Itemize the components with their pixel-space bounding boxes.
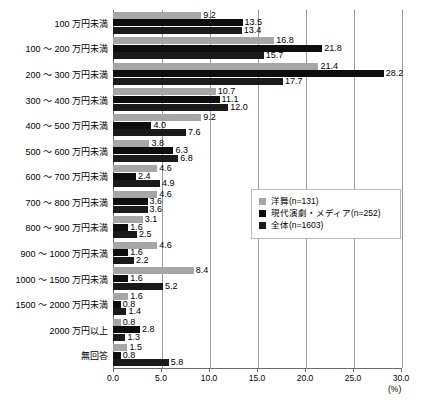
x-axis-tick-label: 20.0 [297, 373, 314, 383]
x-axis-tick-label: 30.0 [393, 373, 410, 383]
chart-legend: 洋舞(n=131) 現代演劇・メディア(n=252) 全体(n=1603) [251, 189, 401, 239]
legend-label: 洋舞(n=131) [271, 196, 319, 207]
bar-value-label: 3.6 [150, 205, 163, 214]
bar-value-label: 2.5 [139, 230, 152, 239]
legend-item-1: 現代演劇・メディア(n=252) [259, 208, 393, 219]
bar-value-label: 7.6 [188, 128, 201, 137]
x-axis-tick-label: 15.0 [249, 373, 266, 383]
bar-0 [113, 267, 194, 274]
bar-2 [113, 359, 169, 366]
bar-2 [113, 104, 228, 111]
bar-2 [113, 180, 160, 187]
bar-value-label: 21.8 [324, 44, 342, 53]
x-axis-tick [257, 368, 258, 372]
category-label: 300 ～ 400 万円未満 [0, 94, 108, 107]
category-label: 600 ～ 700 万円未満 [0, 170, 108, 183]
bar-2 [113, 155, 178, 162]
bar-1 [113, 45, 322, 52]
bar-1 [113, 224, 128, 231]
bar-2 [113, 283, 163, 290]
bar-value-label: 2.8 [142, 325, 155, 334]
bar-1 [113, 198, 148, 205]
category-label: 100 ～ 200 万円未満 [0, 42, 108, 55]
bar-value-label: 8.4 [196, 266, 209, 275]
bar-value-label: 15.7 [266, 51, 284, 60]
category-label: 700 ～ 800 万円未満 [0, 196, 108, 209]
bar-2 [113, 257, 134, 264]
bar-2 [113, 206, 148, 213]
bar-2 [113, 27, 242, 34]
bar-value-label: 1.4 [128, 307, 141, 316]
x-axis-unit-label: (%) [388, 384, 401, 394]
bar-1 [113, 173, 136, 180]
x-axis-tick [401, 368, 402, 372]
legend-item-2: 全体(n=1603) [259, 220, 393, 231]
x-axis-tick [305, 368, 306, 372]
legend-swatch-icon [259, 222, 266, 229]
category-label: 1500 ～ 2000 万円未満 [0, 298, 108, 311]
bar-1 [113, 275, 128, 282]
bar-value-label: 13.4 [244, 26, 262, 35]
bar-1 [113, 147, 173, 154]
bar-0 [113, 140, 149, 147]
gridline [402, 10, 403, 368]
bar-2 [113, 308, 126, 315]
bar-0 [113, 12, 201, 19]
bar-0 [113, 63, 318, 70]
bar-value-label: 4.6 [159, 241, 172, 250]
bar-value-label: 1.3 [127, 333, 140, 342]
x-axis-tick-label: 5.0 [155, 373, 167, 383]
bar-2 [113, 52, 264, 59]
category-label: 500 ～ 600 万円未満 [0, 145, 108, 158]
category-label: 400 ～ 500 万円未満 [0, 119, 108, 132]
category-label: 無回答 [0, 349, 108, 362]
category-label: 100 万円未満 [0, 17, 108, 30]
bar-value-label: 5.2 [165, 282, 178, 291]
bar-value-label: 4.9 [162, 179, 175, 188]
bar-value-label: 12.0 [230, 103, 248, 112]
bar-1 [113, 122, 151, 129]
bar-1 [113, 19, 243, 26]
bar-0 [113, 37, 274, 44]
bar-1 [113, 301, 121, 308]
bar-value-label: 6.8 [180, 154, 193, 163]
bar-2 [113, 78, 283, 85]
bar-value-label: 9.2 [203, 113, 216, 122]
bar-2 [113, 129, 186, 136]
x-axis-tick [161, 368, 162, 372]
legend-swatch-icon [259, 210, 266, 217]
bar-1 [113, 96, 220, 103]
x-axis-tick [209, 368, 210, 372]
bar-0 [113, 319, 121, 326]
bar-1 [113, 352, 121, 359]
bar-chart: 0.05.010.015.020.025.030.0100 万円未満9.213.… [0, 0, 421, 402]
category-label: 1000 ～ 1500 万円未満 [0, 273, 108, 286]
x-axis-tick-label: 25.0 [345, 373, 362, 383]
x-axis-tick-label: 10.0 [201, 373, 218, 383]
x-axis-tick-label: 0.0 [107, 373, 119, 383]
bar-2 [113, 334, 125, 341]
bar-1 [113, 249, 128, 256]
category-label: 900 ～ 1000 万円未満 [0, 247, 108, 260]
x-axis-tick [113, 368, 114, 372]
category-label: 2000 万円以上 [0, 324, 108, 337]
legend-label: 全体(n=1603) [271, 220, 323, 231]
bar-value-label: 28.2 [386, 69, 404, 78]
legend-item-0: 洋舞(n=131) [259, 196, 393, 207]
bar-2 [113, 231, 137, 238]
bar-1 [113, 70, 384, 77]
legend-swatch-icon [259, 198, 266, 205]
x-axis-tick [353, 368, 354, 372]
bar-value-label: 3.1 [145, 215, 158, 224]
bar-0 [113, 88, 216, 95]
bar-value-label: 2.2 [136, 256, 149, 265]
legend-label: 現代演劇・メディア(n=252) [271, 208, 381, 219]
bar-value-label: 4.6 [159, 164, 172, 173]
bar-value-label: 5.8 [171, 358, 184, 367]
category-label: 200 ～ 300 万円未満 [0, 68, 108, 81]
category-label: 800 ～ 900 万円未満 [0, 221, 108, 234]
bar-value-label: 17.7 [285, 77, 303, 86]
